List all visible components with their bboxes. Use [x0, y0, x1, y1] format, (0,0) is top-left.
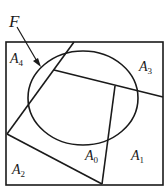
region-diagram: F A4 A3 A2 A1 A0: [0, 0, 164, 189]
boundary-line-3: [102, 86, 115, 184]
label-A4: A4: [9, 51, 24, 68]
label-A0: A0: [84, 148, 99, 165]
label-A1: A1: [130, 148, 144, 165]
ellipse-F: [28, 51, 138, 145]
label-F: F: [8, 12, 20, 31]
arrow-head-icon: [33, 58, 41, 67]
label-A3: A3: [138, 59, 153, 76]
label-A2: A2: [11, 162, 25, 179]
